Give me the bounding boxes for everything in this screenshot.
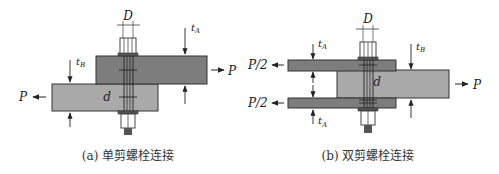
double-shear-diagram: D d t A t A t B P/2 xyxy=(247,12,482,163)
svg-text:A: A xyxy=(321,43,327,51)
caption-a: (a) 单剪螺栓连接 xyxy=(82,148,174,163)
dimension-D: D xyxy=(117,9,140,38)
svg-text:P: P xyxy=(472,78,482,92)
plate-outer-bottom xyxy=(288,98,396,108)
caption-b: (b) 双剪螺栓连接 xyxy=(322,148,415,163)
svg-text:P: P xyxy=(227,64,237,78)
label-D: D xyxy=(362,12,373,26)
force-P-right: P xyxy=(211,64,237,78)
dimension-D: D xyxy=(356,12,379,42)
label-D: D xyxy=(122,9,133,23)
plate-middle xyxy=(337,70,449,98)
svg-text:B: B xyxy=(79,61,85,69)
force-P-half-top: P/2 xyxy=(247,58,284,72)
plate-outer-top xyxy=(288,60,396,71)
force-P-left: P xyxy=(18,90,46,104)
bolt-head xyxy=(358,42,378,60)
svg-text:P/2: P/2 xyxy=(247,96,268,110)
bolt-head xyxy=(118,38,138,56)
single-shear-diagram: D d t A t B P P (a) 单剪螺栓连接 xyxy=(18,9,237,163)
bolted-connection-figure: D d t A t B P P (a) 单剪螺栓连接 xyxy=(0,0,499,174)
bolt-nut xyxy=(118,111,138,135)
force-P-right: P xyxy=(455,78,482,92)
label-d: d xyxy=(373,75,381,89)
force-P-half-bottom: P/2 xyxy=(247,96,284,110)
plate-a xyxy=(96,56,207,84)
svg-text:P: P xyxy=(18,90,28,104)
svg-text:B: B xyxy=(419,46,425,54)
svg-text:P/2: P/2 xyxy=(247,58,268,72)
svg-text:A: A xyxy=(194,27,200,35)
label-d: d xyxy=(103,90,111,104)
bolt-nut xyxy=(358,108,378,133)
svg-text:A: A xyxy=(321,121,327,129)
